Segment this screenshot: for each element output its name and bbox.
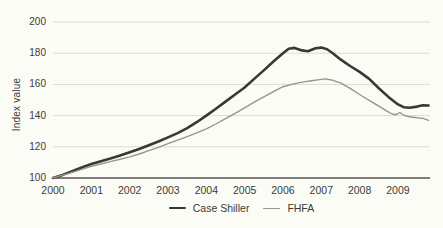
x-tick-label-2001: 2001	[71, 184, 111, 196]
x-tick-label-2008: 2008	[340, 184, 380, 196]
x-tick-label-2005: 2005	[225, 184, 265, 196]
series-line-case-shiller	[53, 48, 429, 178]
legend-label: Case Shiller	[193, 202, 250, 214]
y-tick-label-100: 100	[14, 172, 46, 184]
house-price-index-chart: Index value 100120140160180200 200020012…	[0, 0, 443, 228]
chart-legend: Case ShillerFHFA	[53, 202, 430, 214]
y-tick-label-180: 180	[14, 47, 46, 59]
x-tick-label-2002: 2002	[110, 184, 150, 196]
legend-item-case-shiller: Case Shiller	[169, 202, 250, 214]
x-tick-label-2000: 2000	[33, 184, 73, 196]
x-tick-label-2007: 2007	[301, 184, 341, 196]
y-tick-label-200: 200	[14, 16, 46, 28]
y-axis-title: Index value	[11, 60, 22, 150]
legend-line-swatch	[263, 208, 280, 209]
series-line-fhfa	[53, 79, 429, 178]
y-tick-label-120: 120	[14, 141, 46, 153]
y-tick-label-140: 140	[14, 110, 46, 122]
x-tick-label-2006: 2006	[263, 184, 303, 196]
y-tick-label-160: 160	[14, 78, 46, 90]
legend-label: FHFA	[287, 202, 314, 214]
x-tick-label-2004: 2004	[186, 184, 226, 196]
x-tick-label-2003: 2003	[148, 184, 188, 196]
x-tick-label-2009: 2009	[378, 184, 418, 196]
legend-line-swatch	[169, 207, 186, 209]
legend-item-fhfa: FHFA	[263, 202, 314, 214]
